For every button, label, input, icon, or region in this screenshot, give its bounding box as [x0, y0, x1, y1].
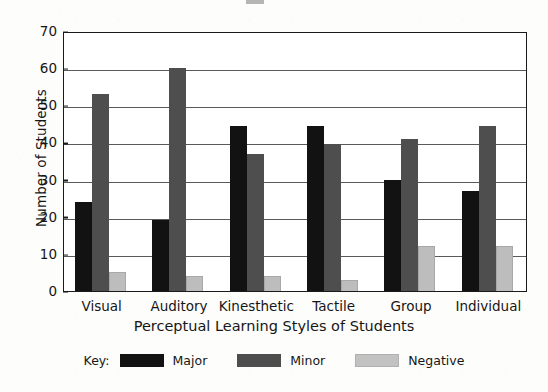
- bars-layer: [64, 33, 526, 291]
- legend: Key: MajorMinorNegative: [0, 353, 548, 368]
- cropped-title-fragment: [246, 0, 264, 4]
- bar-kinesthetic-major: [230, 126, 247, 291]
- bar-group-minor: [401, 139, 418, 291]
- bar-individual-major: [462, 191, 479, 291]
- bar-auditory-major: [152, 220, 169, 291]
- y-axis-tick-mark: [63, 217, 68, 218]
- bar-kinesthetic-minor: [247, 154, 264, 291]
- legend-label-minor: Minor: [290, 353, 325, 368]
- x-axis-tick-label-group: Group: [390, 298, 431, 314]
- bar-individual-minor: [479, 126, 496, 291]
- legend-label-major: Major: [173, 353, 208, 368]
- y-axis-tick-mark: [63, 31, 68, 32]
- bar-chart: Number of Students 010203040506070 Visua…: [0, 0, 548, 392]
- bar-auditory-minor: [169, 68, 186, 291]
- y-axis-tick-label: 20: [11, 211, 57, 225]
- bar-tactile-major: [307, 126, 324, 291]
- y-axis-tick-label: 0: [11, 285, 57, 299]
- legend-label-negative: Negative: [408, 353, 464, 368]
- legend-item-major[interactable]: Major: [120, 353, 208, 368]
- bar-auditory-negative: [186, 276, 203, 291]
- y-axis-tick-mark: [63, 106, 68, 107]
- bar-visual-negative: [109, 272, 126, 291]
- y-axis-tick-label: 70: [11, 25, 57, 39]
- bar-group-major: [384, 180, 401, 291]
- y-axis-tick-label: 60: [11, 62, 57, 76]
- bar-visual-major: [75, 202, 92, 291]
- y-axis-tick-mark: [63, 143, 68, 144]
- x-axis-tick-labels: VisualAuditoryKinestheticTactileGroupInd…: [63, 298, 527, 318]
- y-axis-tick-mark: [63, 180, 68, 181]
- legend-item-negative[interactable]: Negative: [355, 353, 464, 368]
- legend-swatch-minor: [237, 354, 281, 367]
- legend-swatch-negative: [355, 354, 399, 367]
- x-axis-title: Perceptual Learning Styles of Students: [0, 318, 548, 334]
- legend-key-label: Key:: [84, 353, 110, 368]
- y-axis-tick-label: 30: [11, 174, 57, 188]
- y-axis-tick-mark: [63, 291, 68, 292]
- x-axis-tick-label-visual: Visual: [82, 298, 122, 314]
- bar-kinesthetic-negative: [264, 276, 281, 291]
- x-axis-tick-label-tactile: Tactile: [312, 298, 355, 314]
- y-axis-tick-label: 50: [11, 100, 57, 114]
- legend-item-minor[interactable]: Minor: [237, 353, 325, 368]
- legend-swatch-major: [120, 354, 164, 367]
- y-axis-tick-label: 40: [11, 137, 57, 151]
- bar-individual-negative: [496, 246, 513, 291]
- y-axis-title: Number of Students: [33, 43, 49, 273]
- bar-visual-minor: [92, 94, 109, 291]
- y-axis-tick-label: 10: [11, 248, 57, 262]
- plot-area: [63, 32, 527, 292]
- bar-tactile-minor: [324, 144, 341, 291]
- x-axis-tick-label-auditory: Auditory: [150, 298, 207, 314]
- x-axis-tick-label-kinesthetic: Kinesthetic: [219, 298, 294, 314]
- y-axis-tick-mark: [63, 68, 68, 69]
- y-axis-tick-mark: [63, 254, 68, 255]
- bar-tactile-negative: [341, 280, 358, 291]
- bar-group-negative: [418, 246, 435, 291]
- x-axis-tick-label-individual: Individual: [455, 298, 521, 314]
